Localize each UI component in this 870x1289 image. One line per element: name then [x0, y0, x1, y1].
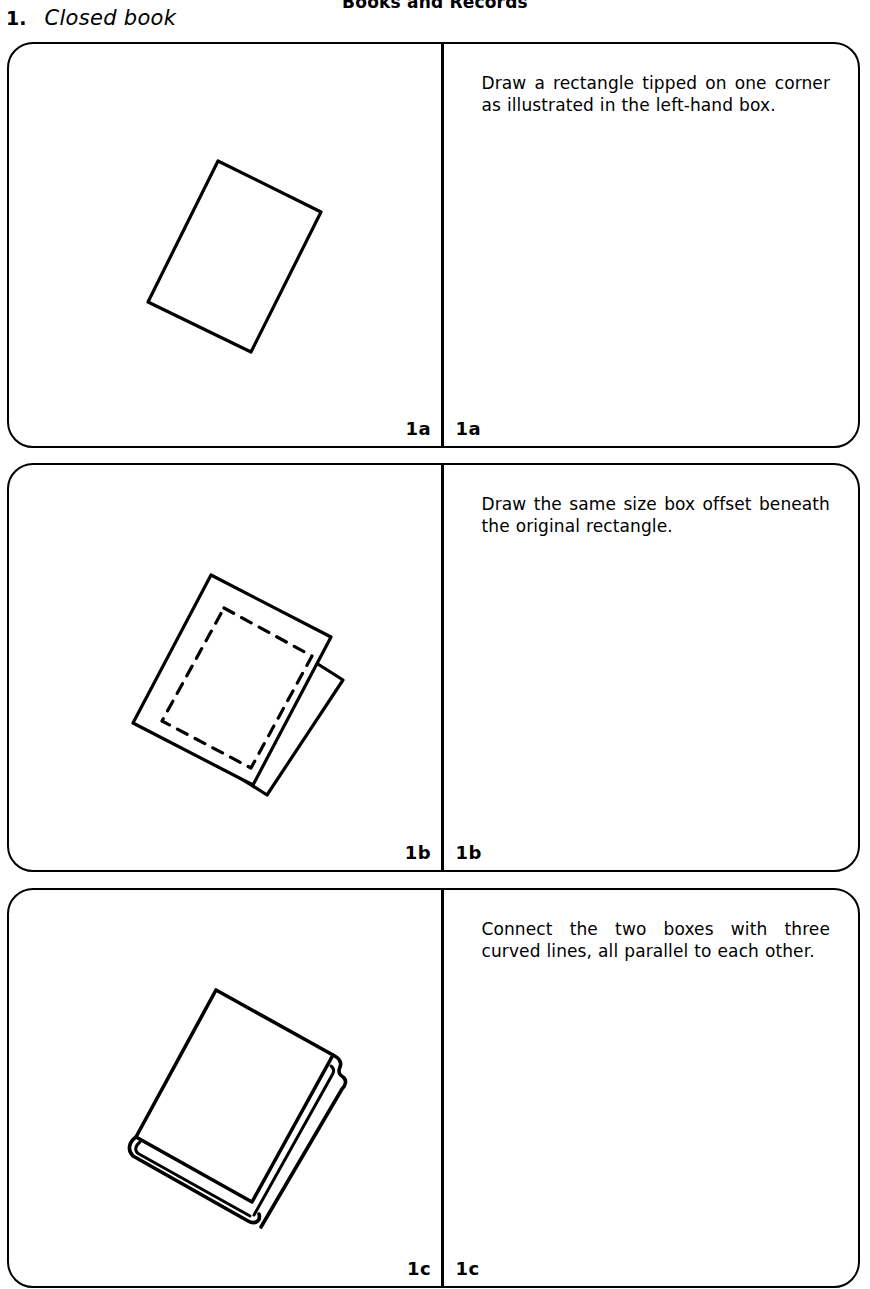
instruction-text-1b: Draw the same size box offset beneath th… [482, 494, 831, 538]
figure-rectangle-with-offset-box [9, 465, 441, 870]
instruction-cell-1a: Draw a rectangle tipped on one corner as… [444, 44, 859, 446]
figure-finished-closed-book [9, 890, 441, 1286]
figure-cell-1c: 1c [9, 890, 441, 1286]
figure-cell-1a: 1a [9, 44, 441, 446]
instruction-label-1a: 1a [456, 418, 481, 439]
instruction-cell-1b: Draw the same size box offset beneath th… [444, 465, 859, 870]
figure-label-1b: 1b [405, 842, 431, 863]
figure-label-1a: 1a [406, 418, 431, 439]
section-name: Closed book [44, 6, 176, 30]
rectangle-cover-outline [148, 161, 321, 352]
exercise-panel-1b: 1b Draw the same size box offset beneath… [7, 463, 860, 872]
section-title: 1. Closed book [6, 6, 176, 30]
figure-cell-1b: 1b [9, 465, 441, 870]
figure-tipped-rectangle [9, 44, 441, 446]
instruction-label-1c: 1c [456, 1258, 480, 1279]
figure-label-1c: 1c [407, 1258, 431, 1279]
top-cover-outline [133, 575, 331, 785]
instruction-text-1c: Connect the two boxes with three curved … [482, 919, 831, 963]
exercise-panel-1c: 1c Connect the two boxes with three curv… [7, 888, 860, 1288]
instruction-cell-1c: Connect the two boxes with three curved … [444, 890, 859, 1286]
instruction-text-1a: Draw a rectangle tipped on one corner as… [482, 73, 831, 117]
exercise-panel-1a: 1a Draw a rectangle tipped on one corner… [7, 42, 860, 448]
section-number: 1. [6, 7, 26, 29]
instruction-label-1b: 1b [456, 842, 482, 863]
